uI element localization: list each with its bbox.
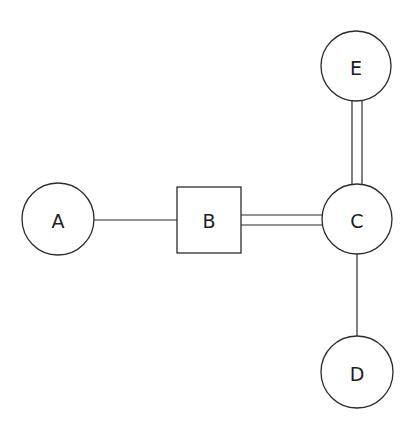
node-e[interactable]: E — [321, 31, 391, 101]
node-b-label: B — [202, 210, 215, 232]
edge-b-c — [241, 215, 323, 225]
node-d[interactable]: D — [321, 336, 393, 408]
node-c-label: C — [350, 210, 363, 232]
node-b[interactable]: B — [177, 187, 241, 253]
node-c[interactable]: C — [322, 184, 392, 254]
edge-c-e — [352, 101, 362, 185]
node-a[interactable]: A — [22, 183, 94, 255]
node-e-label: E — [350, 57, 362, 79]
node-d-label: D — [350, 363, 365, 385]
graph-diagram: A B C E D — [0, 0, 413, 429]
node-a-label: A — [52, 210, 65, 232]
